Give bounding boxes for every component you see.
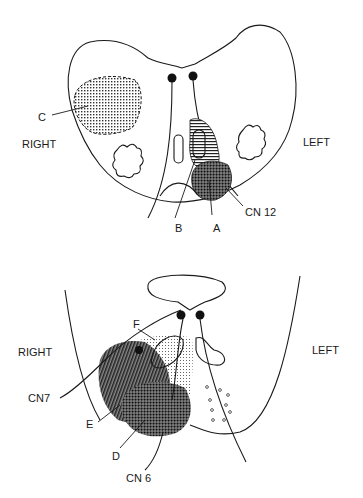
top-medulla-section: RIGHT LEFT C B A CN 12: [22, 25, 330, 234]
lesion-region-d: [121, 382, 190, 436]
side-label-left: LEFT: [312, 344, 339, 356]
midline-nucleus-left: [189, 72, 198, 81]
label-cn12: CN 12: [245, 206, 276, 218]
midline-nucleus-right: [177, 311, 186, 320]
midline-nucleus-left: [196, 311, 205, 320]
fiber-cn6-left: [200, 319, 246, 462]
pyramid-structure: [174, 135, 183, 163]
label-d: D: [112, 450, 120, 462]
pons-wall-right: [65, 290, 100, 420]
side-label-right: RIGHT: [18, 346, 53, 358]
pontine-nuclei: [206, 386, 232, 422]
inferior-olive-left: [237, 125, 266, 160]
label-f: F: [133, 318, 140, 330]
leader-cn12: [226, 188, 243, 206]
leader-cn6: [145, 432, 163, 470]
side-label-right: RIGHT: [22, 138, 57, 150]
midline-nucleus-right: [168, 74, 177, 83]
fiber-right: [148, 82, 172, 218]
bottom-pons-section: RIGHT LEFT F CN7 E D CN 6: [18, 275, 339, 484]
fourth-ventricle: [148, 275, 226, 310]
label-c: C: [38, 111, 46, 123]
lesion-region-c: [74, 76, 141, 134]
label-e: E: [86, 418, 93, 430]
side-label-left: LEFT: [303, 136, 330, 148]
label-cn7: CN7: [28, 392, 50, 404]
diagram-canvas: RIGHT LEFT C B A CN 12: [0, 0, 363, 498]
inferior-olive-right: [113, 144, 144, 177]
lemniscus-left: [196, 337, 225, 365]
facial-nucleus: [135, 346, 143, 354]
label-a: A: [213, 222, 221, 234]
label-cn6: CN 6: [126, 472, 151, 484]
label-b: B: [175, 222, 182, 234]
